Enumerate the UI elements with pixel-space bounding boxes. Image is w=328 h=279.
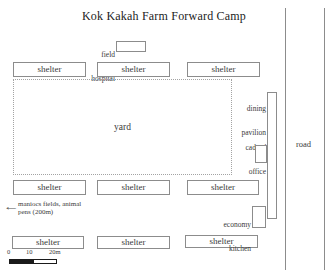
economy-kitchen-label-line2: kitchen [201, 245, 251, 253]
yard-label: yard [114, 122, 131, 132]
scale-bar-filled-segment [9, 259, 33, 264]
map-title: Kok Kakah Farm Forward Camp [0, 9, 328, 24]
cadres-office-label-line2: office [216, 168, 266, 176]
shelter-label: shelter [122, 65, 146, 74]
field-hospital-label-line1: field [75, 51, 115, 59]
shelter-box: shelter [12, 236, 84, 249]
maniocs-note: maniocs fields, animal pens (200m) [18, 201, 81, 216]
shelter-label: shelter [38, 65, 62, 74]
maniocs-note-line2: pens (200m) [18, 209, 81, 217]
shelter-label: shelter [36, 238, 60, 247]
scale-tick-0: 0 [7, 249, 10, 256]
camp-map: Kok Kakah Farm Forward Camp field hospit… [0, 0, 328, 279]
shelter-box: shelter [97, 62, 170, 77]
scale-bar-open-segment [33, 259, 57, 264]
shelter-box: shelter [97, 180, 170, 195]
economy-kitchen-building [252, 206, 266, 228]
shelter-label: shelter [38, 183, 62, 192]
shelter-box: shelter [13, 62, 86, 77]
economy-kitchen-label: economy kitchen [201, 205, 251, 269]
dining-pavilion-building [267, 92, 277, 219]
road-left-edge [285, 8, 286, 270]
scale-tick-20m: 20m [49, 249, 61, 256]
cadres-office-building [255, 145, 267, 163]
road-right-edge [324, 8, 325, 270]
scale-tick-10: 10 [26, 249, 33, 256]
shelter-label: shelter [212, 65, 236, 74]
economy-kitchen-label-line1: economy [201, 221, 251, 229]
shelter-label: shelter [122, 238, 146, 247]
yard-area: yard [13, 79, 232, 175]
shelter-label: shelter [122, 183, 146, 192]
dining-pavilion-label-line1: dining [216, 105, 266, 113]
shelter-box: shelter [187, 62, 260, 77]
shelter-box: shelter [13, 180, 86, 195]
road-label: road [296, 139, 311, 149]
field-hospital-building [116, 41, 146, 52]
shelter-box: shelter [97, 236, 170, 249]
